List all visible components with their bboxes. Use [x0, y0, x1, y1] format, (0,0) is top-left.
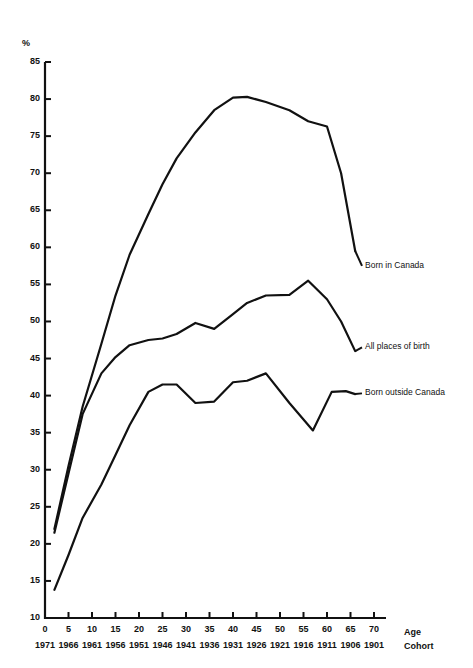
series-leader-1 — [355, 347, 362, 351]
y-tick-label-20: 20 — [18, 538, 40, 548]
y-tick-label-85: 85 — [18, 56, 40, 66]
y-tick-label-55: 55 — [18, 278, 40, 288]
y-tick-label-45: 45 — [18, 353, 40, 363]
y-tick-label-70: 70 — [18, 167, 40, 177]
series-leader-0 — [355, 251, 362, 266]
axis-spines — [45, 62, 386, 618]
y-tick-label-60: 60 — [18, 241, 40, 251]
series-line-2 — [54, 373, 355, 589]
y-tick-label-75: 75 — [18, 130, 40, 140]
chart-figure: % 85807570656055504540353025201510 01971… — [0, 0, 473, 668]
x-axis-cohort-title: Cohort — [404, 641, 434, 651]
y-tick-label-50: 50 — [18, 315, 40, 325]
x-axis-age-title: Age — [404, 627, 421, 637]
series-leader-2 — [355, 393, 362, 394]
x-tick-cohort-1901: 1901 — [358, 640, 390, 650]
y-tick-label-65: 65 — [18, 204, 40, 214]
y-tick-label-10: 10 — [18, 612, 40, 622]
series-label-2: Born outside Canada — [365, 387, 445, 397]
y-tick-label-30: 30 — [18, 464, 40, 474]
y-tick-label-35: 35 — [18, 427, 40, 437]
series-label-1: All places of birth — [365, 341, 430, 351]
series-label-0: Born in Canada — [365, 260, 424, 270]
series-line-1 — [54, 281, 355, 533]
y-tick-label-25: 25 — [18, 501, 40, 511]
y-tick-label-80: 80 — [18, 93, 40, 103]
series-line-0 — [54, 97, 355, 529]
y-tick-label-15: 15 — [18, 575, 40, 585]
x-tick-age-70: 70 — [359, 624, 389, 634]
y-tick-label-40: 40 — [18, 390, 40, 400]
line-chart-plot — [0, 0, 473, 668]
